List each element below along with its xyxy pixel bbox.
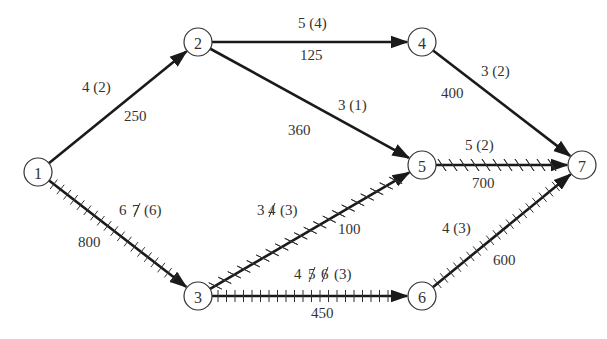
edge-labels: 4 (2) 250 6 7 (6) 800 5 (4) 125 3 (1) 36…	[78, 15, 516, 321]
svg-text:6: 6	[119, 202, 127, 218]
node-label: 2	[194, 35, 202, 52]
node-label: 3	[194, 289, 202, 306]
node-label: 5	[418, 158, 426, 175]
edge-4-7-duration: 3 (2)	[481, 63, 510, 80]
node-5: 5	[408, 151, 436, 179]
edge-2-4-duration: 5 (4)	[298, 15, 327, 32]
node-7: 7	[568, 151, 596, 179]
node-label: 7	[578, 158, 586, 175]
edge-6-7-duration: 4 (3)	[442, 220, 471, 237]
edge-1-3-duration: 6 7 (6)	[119, 202, 162, 219]
edge-3-6-cost: 450	[311, 305, 334, 321]
edge-2-5	[210, 49, 409, 158]
svg-text:(3): (3)	[334, 266, 352, 283]
node-3: 3	[184, 282, 212, 310]
node-6: 6	[408, 282, 436, 310]
edge-1-3	[49, 181, 186, 287]
node-2: 2	[184, 28, 212, 56]
node-1: 1	[24, 158, 52, 186]
edge-3-6-duration: 4 5 6 (3)	[294, 266, 352, 283]
edge-6-7-cost: 600	[493, 252, 516, 268]
edge-3-5-duration: 3 4 (3)	[257, 202, 298, 219]
edge-1-3-cost: 800	[78, 234, 101, 250]
node-label: 4	[418, 35, 426, 52]
project-network-diagram: 1234567 4 (2) 250 6 7 (6) 800 5 (4) 125 …	[0, 0, 607, 339]
svg-text:(3): (3)	[280, 202, 298, 219]
edge-1-2	[49, 51, 186, 163]
edge-2-5-duration: 3 (1)	[338, 97, 367, 114]
edge-2-5-cost: 360	[288, 122, 311, 138]
struck-value: 7	[132, 202, 140, 218]
svg-text:(6): (6)	[144, 202, 162, 219]
node-label: 1	[34, 165, 42, 182]
edge-4-7-cost: 400	[441, 85, 464, 101]
edge-3-5-cost: 100	[338, 221, 361, 237]
svg-text:4: 4	[294, 266, 302, 282]
node-label: 6	[418, 289, 426, 306]
edge-1-2-duration: 4 (2)	[82, 79, 111, 96]
svg-text:3: 3	[257, 202, 265, 218]
node-4: 4	[408, 28, 436, 56]
edge-5-7-cost: 700	[472, 175, 495, 191]
edge-1-2-cost: 250	[124, 108, 147, 124]
edge-2-4-cost: 125	[300, 47, 323, 63]
edge-5-7-duration: 5 (2)	[465, 137, 494, 154]
